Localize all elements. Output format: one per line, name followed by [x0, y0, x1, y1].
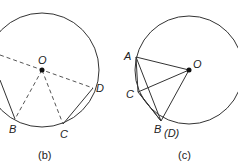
label-o-c: O: [193, 58, 202, 70]
panel-b: O D B C (b): [0, 13, 104, 161]
segment-cd: [140, 94, 161, 121]
chord-to-b: [0, 80, 15, 119]
radius-ob-dashed: [15, 70, 42, 119]
chord-cd: [63, 88, 93, 124]
center-point-o-b: [40, 68, 45, 73]
label-d-c: (D): [164, 127, 180, 139]
geometry-figure: O D B C (b) A O C B (D) (c): [0, 0, 238, 162]
label-c-b: C: [60, 128, 68, 140]
segment-bo: [161, 70, 189, 121]
segment-ao: [136, 57, 189, 70]
label-b-b: B: [9, 123, 16, 135]
panel-c: A O C B (D) (c): [123, 16, 238, 161]
caption-c: (c): [178, 149, 191, 161]
label-a-c: A: [123, 50, 131, 62]
caption-b: (b): [38, 149, 51, 161]
label-o-b: O: [38, 54, 47, 66]
label-c-c: C: [126, 88, 134, 100]
label-b-c: B: [154, 123, 161, 135]
label-d-b: D: [96, 82, 104, 94]
circle-b: [0, 13, 99, 127]
center-point-o-c: [187, 68, 192, 73]
radius-oc-dashed: [42, 70, 63, 124]
segment-ab: [136, 57, 161, 121]
